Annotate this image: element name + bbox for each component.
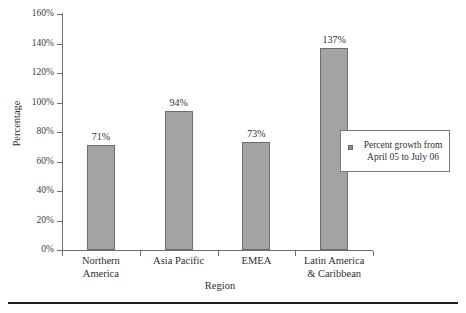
bar-value-label: 73% bbox=[226, 128, 286, 139]
x-category-label-line: EMEA bbox=[211, 255, 301, 268]
y-axis-title: Percentage bbox=[11, 84, 22, 164]
bar-value-label: 71% bbox=[71, 131, 131, 142]
x-category-label: EMEA bbox=[211, 255, 301, 268]
bar bbox=[165, 111, 193, 250]
bar-value-label: 137% bbox=[304, 34, 364, 45]
y-tick bbox=[57, 103, 62, 104]
y-tick bbox=[57, 191, 62, 192]
bar-value-label: 94% bbox=[149, 97, 209, 108]
legend-square-marker-icon bbox=[348, 145, 353, 150]
y-tick bbox=[57, 162, 62, 163]
y-tick bbox=[57, 132, 62, 133]
y-tick-label: 0% bbox=[14, 244, 54, 254]
legend-label: Percent growth from April 05 to July 06 bbox=[358, 139, 448, 163]
legend-label-line2: April 05 to July 06 bbox=[358, 151, 448, 163]
legend-label-line1: Percent growth from bbox=[364, 140, 443, 150]
x-category-label: NorthernAmerica bbox=[56, 255, 146, 280]
bar bbox=[242, 142, 270, 250]
y-tick bbox=[57, 221, 62, 222]
x-axis-title: Region bbox=[0, 280, 440, 291]
y-tick bbox=[57, 44, 62, 45]
y-tick bbox=[57, 14, 62, 15]
x-category-label-line: Asia Pacific bbox=[134, 255, 224, 268]
x-category-label: Asia Pacific bbox=[134, 255, 224, 268]
x-category-label-line: Latin America bbox=[289, 255, 379, 268]
x-category-label-line: America bbox=[56, 268, 146, 281]
bar-chart-figure: 0%20%40%60%80%100%120%140%160% 71%94%73%… bbox=[0, 0, 466, 313]
y-tick-label: 40% bbox=[14, 185, 54, 195]
bottom-divider bbox=[8, 302, 458, 304]
bar bbox=[87, 145, 115, 250]
y-tick-label: 160% bbox=[14, 8, 54, 18]
x-category-label: Latin America& Caribbean bbox=[289, 255, 379, 280]
chart-legend: Percent growth from April 05 to July 06 bbox=[340, 130, 450, 172]
y-tick-label: 140% bbox=[14, 38, 54, 48]
y-tick-label: 120% bbox=[14, 67, 54, 77]
x-category-label-line: & Caribbean bbox=[289, 268, 379, 281]
y-tick-label: 20% bbox=[14, 215, 54, 225]
y-tick bbox=[57, 73, 62, 74]
x-category-label-line: Northern bbox=[56, 255, 146, 268]
y-axis-line bbox=[62, 13, 63, 251]
